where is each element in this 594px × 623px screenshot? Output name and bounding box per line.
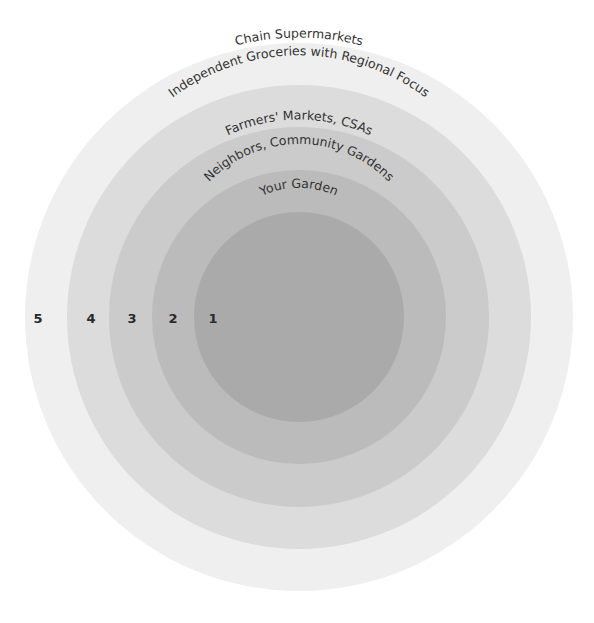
ring-3-number: 3 — [127, 311, 136, 326]
ring-5-number: 5 — [33, 311, 42, 326]
ring-4-number: 4 — [86, 311, 95, 326]
ring-1-number: 1 — [208, 311, 217, 326]
ring-2-number: 2 — [168, 311, 177, 326]
ring-1 — [194, 212, 404, 422]
concentric-diagram: Chain Supermarkets Independent Groceries… — [0, 0, 594, 623]
